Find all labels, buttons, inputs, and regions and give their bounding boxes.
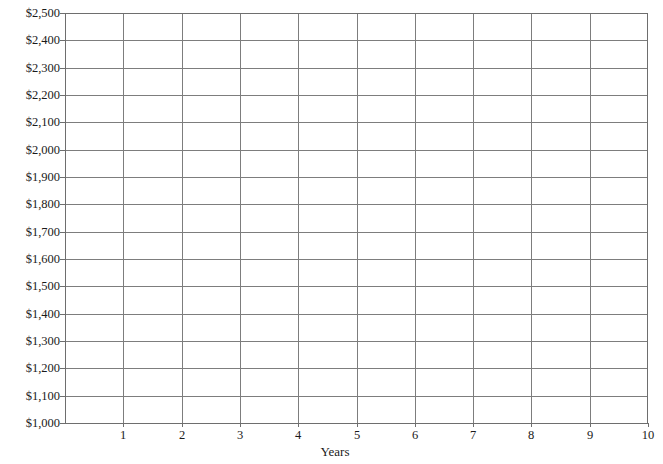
x-tick-mark bbox=[182, 423, 183, 427]
x-tick-label: 6 bbox=[395, 428, 435, 442]
x-tick-label: 4 bbox=[278, 428, 318, 442]
x-tick-label: 7 bbox=[453, 428, 493, 442]
x-tick-mark bbox=[590, 423, 591, 427]
x-tick-label: 8 bbox=[511, 428, 551, 442]
x-axis-title: Years bbox=[0, 444, 663, 459]
x-tick-mark bbox=[123, 423, 124, 427]
x-tick-mark bbox=[648, 423, 649, 427]
x-tick-label: 1 bbox=[103, 428, 143, 442]
x-tick-mark bbox=[531, 423, 532, 427]
x-tick-mark bbox=[357, 423, 358, 427]
x-tick-label: 9 bbox=[570, 428, 610, 442]
chart-container: $2,500$2,400$2,300$2,200$2,100$2,000$1,9… bbox=[0, 0, 663, 464]
x-tick-mark bbox=[298, 423, 299, 427]
x-tick-mark bbox=[415, 423, 416, 427]
x-axis: 12345678910 bbox=[0, 0, 663, 464]
x-tick-label: 3 bbox=[220, 428, 260, 442]
x-tick-label: 5 bbox=[337, 428, 377, 442]
x-tick-mark bbox=[473, 423, 474, 427]
x-tick-mark bbox=[240, 423, 241, 427]
x-tick-label: 2 bbox=[162, 428, 202, 442]
x-tick-label: 10 bbox=[628, 428, 663, 442]
